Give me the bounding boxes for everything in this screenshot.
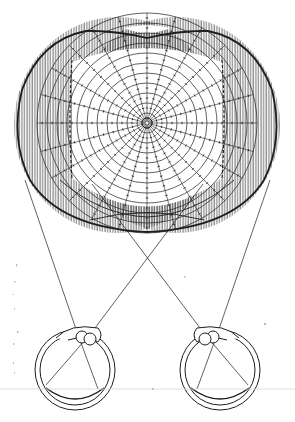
left-eye-retina xyxy=(46,388,104,399)
right-eye-sclera-outer xyxy=(180,330,260,410)
left-eye xyxy=(35,327,115,410)
right-eye-sclera-inner xyxy=(185,335,255,405)
left-eye-sclera-outer xyxy=(35,330,115,410)
binocular-visual-field-diagram xyxy=(0,0,295,422)
right-eye-retina xyxy=(191,388,249,399)
right-eye xyxy=(180,327,260,410)
fixation-point xyxy=(145,121,149,125)
left-eye-sclera-inner xyxy=(40,335,110,405)
perimetry-grid xyxy=(37,13,257,233)
scan-artifacts xyxy=(13,264,266,390)
